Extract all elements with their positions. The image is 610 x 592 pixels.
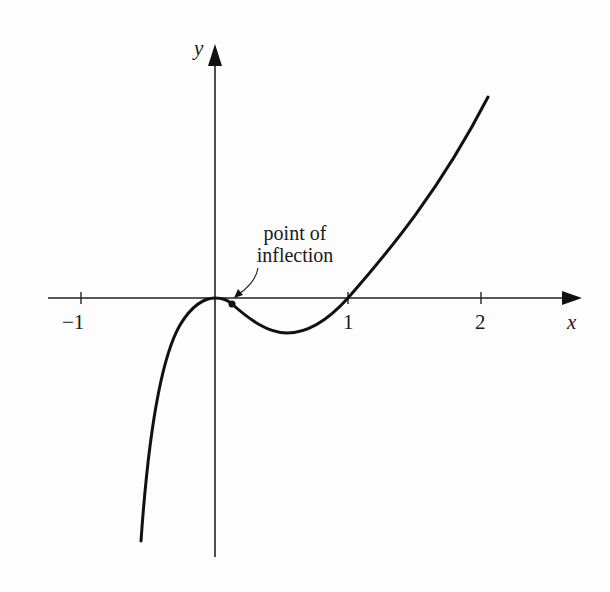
annotation-arrowhead-icon	[234, 289, 243, 298]
plot-area	[0, 0, 610, 592]
chart: y x −1 1 2 point of inflection	[0, 0, 610, 592]
tick-label-2: 2	[475, 312, 486, 333]
x-axis-arrow-icon	[562, 291, 582, 305]
annotation-text: point of inflection	[240, 222, 350, 266]
tick-label-1: 1	[343, 312, 354, 333]
tick-label-neg1: −1	[62, 312, 84, 333]
annotation-line2: inflection	[240, 244, 350, 266]
annotation-line1: point of	[240, 222, 350, 244]
curve-line	[141, 97, 488, 541]
inflection-point-marker	[229, 301, 236, 308]
y-axis-arrow-icon	[208, 44, 222, 66]
y-axis-label: y	[194, 38, 203, 59]
annotation-arrow	[237, 268, 258, 295]
x-axis-label: x	[567, 312, 576, 333]
